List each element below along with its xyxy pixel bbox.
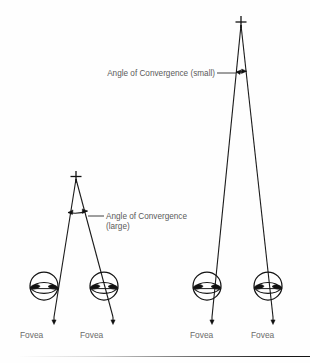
near-fixation-group: Angle of Convergence (large) Fovea — [20, 171, 187, 340]
fovea-label-far-left: Fovea — [190, 330, 214, 340]
fovea-label-near-right: Fovea — [80, 330, 104, 340]
fovea-pointer-far-left — [210, 317, 214, 325]
eye-near-left — [30, 272, 58, 300]
eye-near-right — [90, 272, 118, 300]
far-right-ray — [241, 25, 273, 317]
page-bottom-rule — [18, 356, 310, 357]
small-angle-label: Angle of Convergence (small) — [107, 69, 215, 78]
small-angle-arc — [236, 69, 247, 74]
eye-far-left — [193, 272, 221, 300]
near-left-ray — [54, 179, 76, 317]
figure-root: Angle of convergence for near and far fi… — [0, 0, 310, 363]
large-angle-label-line2: (large) — [106, 222, 130, 231]
far-fixation-cross-icon — [236, 16, 247, 28]
far-left-ray — [212, 25, 241, 317]
fovea-label-far-right: Fovea — [251, 330, 275, 340]
far-fixation-group: Angle of Convergence (small) Fovea — [107, 16, 282, 340]
large-angle-label-line1: Angle of Convergence — [106, 212, 187, 221]
convergence-diagram: Angle of convergence for near and far fi… — [0, 0, 310, 363]
near-fixation-cross-icon — [71, 171, 82, 183]
fovea-label-near-left: Fovea — [20, 330, 44, 340]
fovea-pointer-far-right — [271, 317, 275, 325]
fovea-pointer-near-left — [52, 317, 56, 325]
fovea-pointer-near-right — [111, 317, 115, 325]
